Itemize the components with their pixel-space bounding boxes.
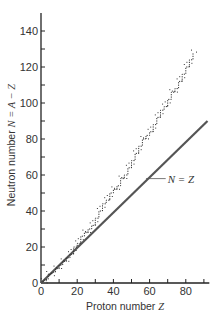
stable-nucleus-dot xyxy=(116,188,117,189)
stable-nucleus-dot xyxy=(92,220,93,221)
stable-nucleus-dot xyxy=(162,104,163,105)
stable-nucleus-dot xyxy=(133,150,134,151)
y-tick-label: 60 xyxy=(26,169,38,181)
stable-nucleus-dot xyxy=(153,131,154,132)
chart: 020406080 020406080100120140 N = Z Proto… xyxy=(0,0,219,318)
stable-band-staircase xyxy=(43,53,193,282)
stable-nucleus-dot xyxy=(61,258,62,259)
stable-nucleus-dot xyxy=(191,50,192,51)
stable-nucleus-dot xyxy=(148,138,149,139)
stable-nucleus-dot xyxy=(136,148,137,149)
y-tick-label: 20 xyxy=(26,241,38,253)
stable-nucleus-dot xyxy=(182,80,183,81)
stable-nucleus-dot xyxy=(82,230,83,231)
stable-nucleus-dot xyxy=(102,210,103,211)
stable-nucleus-dot xyxy=(184,77,185,78)
stable-nucleus-dot xyxy=(100,206,101,207)
x-tick-label: 80 xyxy=(180,285,192,297)
stable-nucleus-dot xyxy=(61,268,62,269)
stable-nucleus-dot xyxy=(126,165,127,166)
stable-nucleus-dot xyxy=(54,275,55,276)
stable-nucleus-dot xyxy=(119,176,120,177)
y-tick-label: 0 xyxy=(32,277,38,289)
stable-nucleus-dot xyxy=(170,102,171,103)
stable-nucleus-dot xyxy=(174,91,175,92)
stable-nucleus-dot xyxy=(172,91,173,92)
annotation-label: N = Z xyxy=(167,173,195,185)
stable-nucleus-dot xyxy=(85,231,86,232)
stable-nucleus-dot xyxy=(167,106,168,107)
stable-nucleus-dot xyxy=(97,208,98,209)
stable-nucleus-dot xyxy=(131,167,132,168)
x-axis-title: Proton number Z xyxy=(86,300,164,312)
stable-nucleus-dot xyxy=(158,112,159,113)
stable-nucleus-dot xyxy=(90,232,91,233)
stable-nucleus-dot xyxy=(124,178,125,179)
stable-nucleus-dot xyxy=(56,267,57,268)
stable-nucleus-dot xyxy=(189,66,190,67)
stable-nucleus-dot xyxy=(140,136,141,137)
stable-nucleus-dot xyxy=(46,280,47,281)
stable-nucleus-dot xyxy=(105,207,106,208)
stable-nucleus-dot xyxy=(163,113,164,114)
stable-nucleus-dot xyxy=(97,221,98,222)
x-tick-label: 40 xyxy=(107,285,119,297)
stable-nucleus-dot xyxy=(107,195,108,196)
stable-nucleus-dot xyxy=(165,101,166,102)
y-tick-label: 80 xyxy=(26,133,38,145)
stable-nucleus-dot xyxy=(59,268,60,269)
stable-nucleus-dot xyxy=(134,164,135,165)
y-axis-title: Neutron number N = A − Z xyxy=(5,84,17,207)
x-tick-label: 60 xyxy=(143,285,155,297)
stable-nucleus-dot xyxy=(75,240,76,241)
y-tick-label: 40 xyxy=(26,205,38,217)
stable-nucleus-dot xyxy=(54,266,55,267)
stable-nucleus-dot xyxy=(119,189,120,190)
stable-nucleus-dot xyxy=(177,92,178,93)
stable-nucleus-dot xyxy=(63,260,64,261)
stable-nucleus-dot xyxy=(41,278,42,279)
stable-nucleus-dot xyxy=(184,64,185,65)
x-tick-label: 0 xyxy=(38,285,44,297)
stable-nucleus-dot xyxy=(42,281,43,282)
stable-nucleus-dot xyxy=(138,152,139,153)
stable-nucleus-dot xyxy=(179,76,180,77)
x-axis-ticks: 020406080 xyxy=(38,279,204,297)
stable-nucleus-dot xyxy=(196,52,197,53)
stable-nucleus-dot xyxy=(90,222,91,223)
x-tick-label: 20 xyxy=(71,285,83,297)
stable-nucleus-dot xyxy=(112,196,113,197)
stable-nucleus-dot xyxy=(169,89,170,90)
stable-nucleus-dot xyxy=(51,273,52,274)
stable-nucleus-dot xyxy=(49,274,50,275)
stable-nucleus-dot xyxy=(68,251,69,252)
stable-nucleus-dot xyxy=(129,163,130,164)
stable-nucleus-dot xyxy=(47,282,48,283)
stable-nucleus-dot xyxy=(83,239,84,240)
stable-nucleus-dot xyxy=(141,149,142,150)
stable-nucleus-dot xyxy=(73,253,74,254)
y-tick-label: 120 xyxy=(20,61,38,73)
stable-nucleus-dot xyxy=(191,63,192,64)
stable-nucleus-dot xyxy=(71,249,72,250)
stable-nucleus-dot xyxy=(121,177,122,178)
stable-nucleus-dot xyxy=(186,62,187,63)
stable-nucleus-dot xyxy=(155,114,156,115)
y-tick-label: 100 xyxy=(20,97,38,109)
stable-nucleus-dot xyxy=(46,271,47,272)
stable-nucleus-dot xyxy=(148,129,149,130)
stable-nucleus-dot xyxy=(143,137,144,138)
stable-nucleus-dot xyxy=(95,224,96,225)
stable-nucleus-dot xyxy=(155,128,156,129)
stable-nucleus-dot xyxy=(104,197,105,198)
stable-nucleus-dot xyxy=(150,127,151,128)
y-tick-label: 140 xyxy=(20,25,38,37)
stable-nuclei-band xyxy=(41,50,197,284)
stable-nucleus-dot xyxy=(145,138,146,139)
axes xyxy=(41,13,209,283)
stable-nucleus-dot xyxy=(80,242,81,243)
stable-nucleus-dot xyxy=(78,238,79,239)
stable-nucleus-dot xyxy=(68,261,69,262)
stable-nucleus-dot xyxy=(160,116,161,117)
stable-nucleus-dot xyxy=(177,78,178,79)
